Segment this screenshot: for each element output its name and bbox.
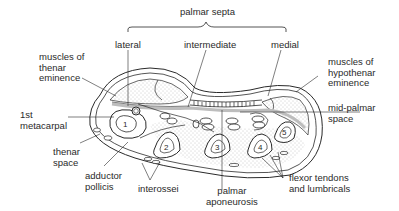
label-first-metacarpal: 1st metacarpal (20, 110, 67, 131)
label-medial: medial (271, 40, 299, 51)
svg-text:5: 5 (282, 128, 287, 137)
svg-text:3: 3 (215, 143, 220, 152)
label-hypothenar-muscles: muscles of hypothenar eminence (328, 57, 376, 89)
label-thenar-space: thenar space (53, 147, 80, 168)
label-palmar-aponeurosis: palmar aponeurosis (206, 186, 258, 207)
label-intermediate: intermediate (184, 40, 236, 51)
septa-brace (128, 22, 286, 32)
label-thenar-muscles: muscles of thenar eminence (39, 52, 84, 84)
svg-text:2: 2 (164, 143, 169, 152)
bone-number-1: 1 (123, 120, 128, 129)
label-flexor-tendons: flexor tendons and lumbricals (289, 173, 350, 194)
label-palmar-septa: palmar septa (180, 7, 235, 18)
label-interossei: interossei (138, 184, 179, 195)
label-mid-palmar-space: mid-palmar space (328, 103, 376, 124)
svg-text:4: 4 (258, 143, 263, 152)
hand-cross-section-diagram: 1 2 3 4 5 (0, 0, 399, 211)
label-adductor-pollicis: adductor pollicis (85, 171, 122, 192)
label-lateral: lateral (115, 40, 141, 51)
